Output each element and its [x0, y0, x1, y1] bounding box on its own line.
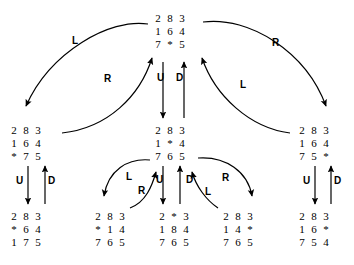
tile: 4 — [116, 223, 128, 236]
operator-label-op-left-down: U — [16, 176, 23, 186]
operator-label-op-center-u: U — [156, 175, 163, 185]
puzzle-row: 184 — [156, 223, 192, 236]
puzzle-state-root: 2831647*5 — [152, 12, 188, 51]
blank-tile: * — [8, 223, 20, 236]
tile: 5 — [176, 150, 188, 163]
tile: 2 — [8, 124, 20, 137]
tile: 8 — [20, 124, 32, 137]
tile: 8 — [164, 12, 176, 25]
tile: 3 — [176, 124, 188, 137]
operator-label-op-right-down: U — [303, 176, 310, 186]
puzzle-row: 283 — [152, 12, 188, 25]
tile: 6 — [164, 150, 176, 163]
tile: 1 — [156, 223, 168, 236]
tile: 5 — [32, 150, 44, 163]
tile: 5 — [180, 236, 192, 249]
puzzle-state-n-left: 283164*75 — [8, 124, 44, 163]
puzzle-row: 164 — [296, 137, 332, 150]
tile: 4 — [320, 236, 332, 249]
tile: 4 — [176, 25, 188, 38]
puzzle-row: 765 — [220, 236, 256, 249]
puzzle-row: 283 — [8, 124, 44, 137]
tile: 1 — [296, 137, 308, 150]
puzzle-state-n-right: 28316475* — [296, 124, 332, 163]
tile: 7 — [220, 236, 232, 249]
tile: 3 — [320, 210, 332, 223]
tile: 6 — [164, 25, 176, 38]
puzzle-row: 16* — [296, 223, 332, 236]
puzzle-row: 754 — [296, 236, 332, 249]
blank-tile: * — [320, 150, 332, 163]
blank-tile: * — [164, 38, 176, 51]
tile: 2 — [92, 210, 104, 223]
tile: 3 — [320, 124, 332, 137]
tile: 7 — [152, 38, 164, 51]
tile: 4 — [32, 137, 44, 150]
tile: 4 — [320, 137, 332, 150]
operator-label-op-center-up: D — [176, 73, 183, 83]
tile: 3 — [32, 124, 44, 137]
tile: 1 — [104, 223, 116, 236]
tile: 7 — [296, 236, 308, 249]
puzzle-row: 765 — [156, 236, 192, 249]
tile: 5 — [308, 150, 320, 163]
tile: 8 — [168, 223, 180, 236]
tile: 3 — [116, 210, 128, 223]
blank-tile: * — [320, 223, 332, 236]
tile: 8 — [164, 124, 176, 137]
operator-label-op-root-left: L — [72, 36, 78, 46]
operator-label-op-center-d: D — [186, 175, 193, 185]
operator-label-op-right-up: D — [334, 176, 341, 186]
puzzle-state-n-c2: 2*3184765 — [156, 210, 192, 249]
tile: 1 — [220, 223, 232, 236]
tile: 6 — [104, 236, 116, 249]
tile: 2 — [296, 124, 308, 137]
blank-tile: * — [92, 223, 104, 236]
puzzle-state-n-center: 2831*4765 — [152, 124, 188, 163]
tile: 3 — [176, 12, 188, 25]
tile: 3 — [32, 210, 44, 223]
tile: 8 — [308, 210, 320, 223]
puzzle-row: 765 — [92, 236, 128, 249]
puzzle-row: 14* — [220, 223, 256, 236]
operator-label-op-right-root: L — [240, 80, 246, 90]
operator-label-op-root-down: U — [157, 73, 164, 83]
tile: 6 — [308, 137, 320, 150]
tile: 2 — [296, 210, 308, 223]
operator-label-op-left-root: R — [104, 74, 111, 84]
tile: 7 — [20, 150, 32, 163]
puzzle-row: *14 — [92, 223, 128, 236]
puzzle-row: *75 — [8, 150, 44, 163]
blank-tile: * — [164, 137, 176, 150]
blank-tile: * — [244, 223, 256, 236]
tile: 4 — [232, 223, 244, 236]
puzzle-row: 7*5 — [152, 38, 188, 51]
operator-label-op-center-l: L — [126, 172, 132, 182]
puzzle-row: 765 — [152, 150, 188, 163]
tile: 1 — [296, 223, 308, 236]
edge-e-right-to-root — [202, 58, 290, 133]
tile: 6 — [308, 223, 320, 236]
tile: 8 — [20, 210, 32, 223]
puzzle-row: 164 — [152, 25, 188, 38]
puzzle-row: 283 — [152, 124, 188, 137]
operator-label-op-center-r-l: L — [205, 187, 211, 197]
operator-label-op-left-up: D — [48, 176, 55, 186]
puzzle-row: 75* — [296, 150, 332, 163]
tile: 8 — [308, 124, 320, 137]
tile: 7 — [92, 236, 104, 249]
edge-e-left-to-root — [62, 58, 152, 133]
tile: 7 — [20, 236, 32, 249]
tile: 1 — [152, 137, 164, 150]
puzzle-state-n-rr: 28316*754 — [296, 210, 332, 249]
edge-e-root-to-right — [203, 21, 326, 106]
tile: 5 — [244, 236, 256, 249]
tile: 1 — [8, 137, 20, 150]
tile: 5 — [308, 236, 320, 249]
tile: 7 — [152, 150, 164, 163]
puzzle-state-n-c1: 283*14765 — [92, 210, 128, 249]
tile: 6 — [20, 223, 32, 236]
puzzle-row: 283 — [8, 210, 44, 223]
tile: 6 — [232, 236, 244, 249]
puzzle-state-n-c3: 28314*765 — [220, 210, 256, 249]
